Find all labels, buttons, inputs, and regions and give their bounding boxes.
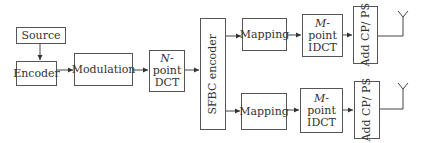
addcp-bottom-label: Add CP/ PS — [361, 78, 373, 141]
encoder-block: Encoder — [16, 61, 57, 86]
antenna-bottom-icon — [397, 82, 409, 110]
m-point-idct-top-block: M- point IDCT — [302, 14, 343, 57]
midct-top-hyphen: - — [326, 17, 330, 30]
n-point-dct-block: N- point DCT — [149, 50, 185, 92]
sfbc-label: SFBC encoder — [207, 34, 219, 115]
source-label: Source — [21, 30, 60, 42]
encoder-label: Encoder — [13, 68, 60, 80]
add-cp-ps-bottom-block: Add CP/ PS — [354, 81, 380, 139]
mapping-top-label: Mapping — [240, 29, 290, 41]
ndct-line3: DCT — [155, 77, 180, 89]
m-point-idct-bottom-block: M-point IDCT — [300, 88, 343, 133]
source-block: Source — [16, 27, 66, 44]
midct-top-line2: point — [308, 30, 337, 42]
midct-top-line3: IDCT — [308, 42, 337, 54]
modulation-block: Modulation — [74, 53, 133, 86]
antenna-top-icon — [397, 10, 409, 37]
modulation-label: Modulation — [72, 64, 136, 76]
sfbc-encoder-block: SFBC encoder — [200, 18, 226, 130]
mapping-bottom-block: Mapping — [241, 93, 287, 130]
m-variable-top: M — [315, 17, 326, 30]
addcp-top-label: Add CP/ PS — [360, 3, 372, 66]
midct-bottom-line2: IDCT — [307, 117, 336, 129]
mapping-bottom-label: Mapping — [239, 106, 289, 118]
add-cp-ps-top-block: Add CP/ PS — [353, 6, 378, 64]
mapping-top-block: Mapping — [242, 18, 287, 51]
